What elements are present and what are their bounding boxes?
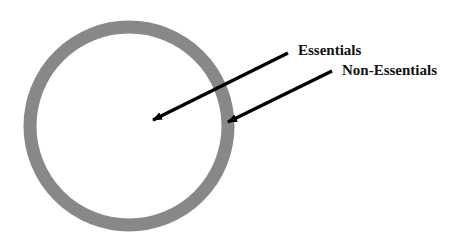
essentials-diagram: Essentials Non-Essentials (0, 0, 459, 246)
diagram-graphic (0, 0, 459, 246)
essentials-label: Essentials (298, 43, 361, 58)
non-essentials-arrow (228, 71, 332, 122)
non-essentials-ring (30, 27, 228, 225)
non-essentials-label: Non-Essentials (342, 63, 437, 78)
